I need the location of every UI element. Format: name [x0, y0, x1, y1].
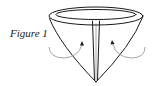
left-curved-arrow-icon — [49, 41, 84, 58]
t-fold-left-edge — [93, 21, 95, 80]
inner-rim — [56, 10, 136, 20]
napkin-fold-diagram — [0, 0, 154, 86]
napkin-cone — [49, 7, 143, 82]
cone-left-side — [50, 19, 97, 83]
t-fold-right-edge — [98, 21, 100, 80]
cone-right-side — [96, 18, 143, 83]
right-curved-arrow-icon — [111, 40, 146, 58]
